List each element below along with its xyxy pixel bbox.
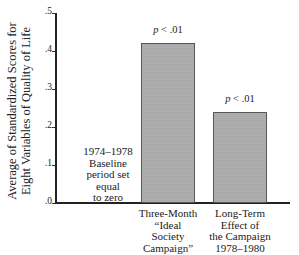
y-tick-label: .5: [36, 6, 52, 16]
y-tick-label: .0: [36, 196, 52, 206]
y-tick-label: .3: [36, 82, 52, 92]
baseline-annotation: 1974–1978 Baseline period set equal to z…: [72, 146, 144, 204]
y-axis-line: [55, 13, 57, 204]
x-category-label: Three-Month“IdealSocietyCampaign”: [128, 208, 208, 254]
category-label-line: Long-Term: [200, 208, 280, 220]
y-tick-label: .1: [36, 158, 52, 168]
category-label-line: 1978–1980: [200, 243, 280, 255]
category-label-line: the Campaign: [200, 231, 280, 243]
category-label-line: Campaign”: [128, 243, 208, 255]
annotation-line: period set: [72, 169, 144, 181]
category-label-line: Society: [128, 231, 208, 243]
bar: [141, 43, 195, 203]
y-tick-label: .4: [36, 44, 52, 54]
x-category-label: Long-TermEffect ofthe Campaign1978–1980: [200, 208, 280, 254]
category-label-line: Three-Month: [128, 208, 208, 220]
y-axis-title: Average of Standardized Scores for Eight…: [4, 26, 34, 196]
annotation-line: 1974–1978: [72, 146, 144, 158]
significance-label: p < .01: [210, 93, 270, 104]
annotation-line: to zero: [72, 192, 144, 204]
y-tick-label: .2: [36, 120, 52, 130]
bar: [213, 112, 267, 203]
y-axis-title-line-2: Eight Variables of Quality of Life: [19, 22, 33, 199]
significance-label: p < .01: [138, 24, 198, 35]
y-axis-title-line-1: Average of Standardized Scores for: [5, 22, 19, 199]
